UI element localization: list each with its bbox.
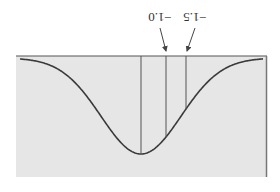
normal-curve-figure: −1.0 −1.5	[0, 0, 280, 192]
arrow-to-minus-1-0	[160, 28, 166, 51]
label-minus-1-5: −1.5	[183, 10, 207, 25]
label-minus-1-0: −1.0	[148, 10, 172, 25]
arrow-to-minus-1-5	[187, 28, 195, 51]
